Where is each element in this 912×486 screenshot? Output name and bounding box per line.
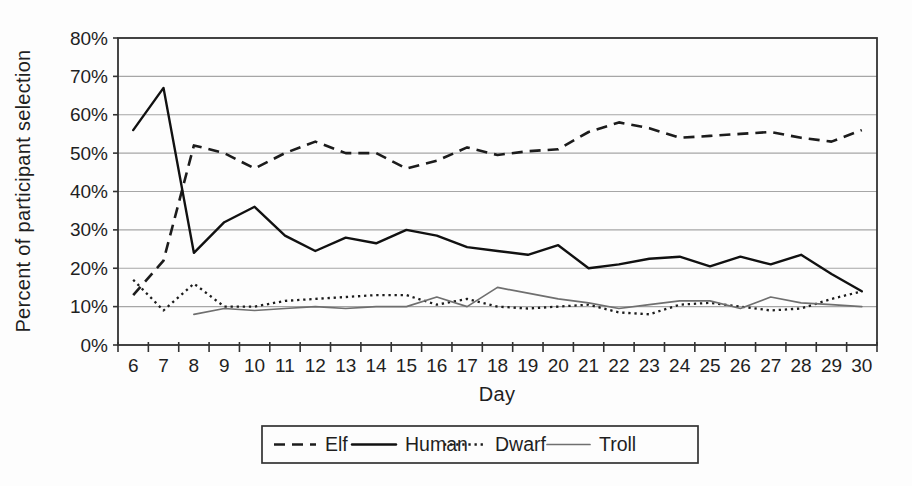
x-tick-label: 25	[699, 355, 720, 376]
legend-label-elf: Elf	[325, 433, 348, 455]
x-tick-label: 30	[851, 355, 872, 376]
x-tick-label: 8	[189, 355, 200, 376]
y-tick-label: 60%	[70, 104, 108, 125]
x-tick-label: 26	[730, 355, 751, 376]
x-axis-title: Day	[479, 383, 515, 405]
x-tick-label: 23	[639, 355, 660, 376]
x-tick-label: 10	[244, 355, 265, 376]
x-tick-label: 15	[396, 355, 417, 376]
x-tick-label: 28	[791, 355, 812, 376]
legend-label-dwarf: Dwarf	[495, 433, 547, 455]
x-tick-label: 20	[548, 355, 569, 376]
y-tick-label: 0%	[81, 335, 109, 356]
x-tick-label: 17	[457, 355, 478, 376]
y-tick-label: 30%	[70, 219, 108, 240]
x-tick-label: 24	[669, 355, 691, 376]
x-tick-label: 16	[426, 355, 447, 376]
y-tick-label: 70%	[70, 66, 108, 87]
chart-figure: 0%10%20%30%40%50%60%70%80%67891011121314…	[0, 0, 912, 486]
y-tick-label: 80%	[70, 28, 108, 49]
x-tick-label: 7	[158, 355, 169, 376]
y-tick-label: 20%	[70, 258, 108, 279]
y-tick-label: 10%	[70, 296, 108, 317]
x-tick-label: 6	[128, 355, 139, 376]
x-tick-label: 29	[821, 355, 842, 376]
x-tick-label: 13	[335, 355, 356, 376]
legend: ElfHumanDwarfTroll	[262, 426, 698, 463]
line-chart: 0%10%20%30%40%50%60%70%80%67891011121314…	[0, 0, 912, 486]
x-tick-label: 19	[517, 355, 538, 376]
y-tick-label: 40%	[70, 181, 108, 202]
y-tick-label: 50%	[70, 143, 108, 164]
x-tick-label: 11	[275, 355, 295, 376]
x-tick-label: 27	[760, 355, 781, 376]
x-tick-label: 14	[365, 355, 387, 376]
x-tick-label: 18	[487, 355, 508, 376]
x-tick-label: 21	[578, 355, 599, 376]
plot-area: 0%10%20%30%40%50%60%70%80%67891011121314…	[70, 28, 877, 377]
y-axis-title: Percent of participant selection	[12, 49, 34, 332]
x-tick-label: 12	[305, 355, 326, 376]
legend-label-troll: Troll	[599, 433, 636, 455]
x-tick-label: 22	[608, 355, 629, 376]
x-tick-label: 9	[219, 355, 230, 376]
